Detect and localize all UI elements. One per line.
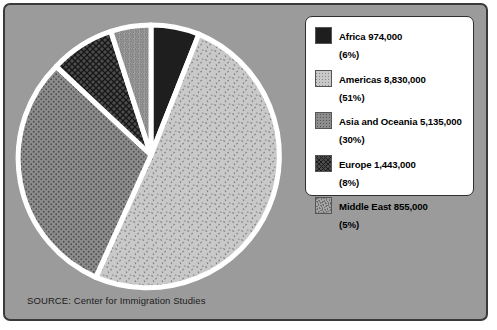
legend-swatch-americas: [315, 70, 332, 87]
legend-label-middle-east: Middle East 855,000: [339, 201, 428, 212]
pie-chart-svg: [15, 13, 287, 291]
legend-percent-europe: (8%): [339, 177, 359, 188]
legend-swatch-asia: [315, 112, 332, 129]
legend-percent-americas: (51%): [339, 92, 365, 103]
legend-item-americas[interactable]: Americas 8,830,000 (51%): [315, 69, 465, 105]
legend-label-americas: Americas 8,830,000: [339, 74, 426, 85]
pie-slices: [18, 25, 279, 288]
legend-item-middle-east[interactable]: Middle East 855,000 (5%): [315, 196, 465, 232]
legend-swatch-middle-east: [315, 197, 332, 214]
legend-item-asia-oceania[interactable]: Asia and Oceania 5,135,000 (30%): [315, 111, 465, 147]
legend-swatch-africa: [315, 27, 332, 44]
legend-percent-africa: (6%): [339, 49, 359, 60]
legend-percent-middle-east: (5%): [339, 219, 359, 230]
legend-item-africa[interactable]: Africa 974,000 (6%): [315, 26, 465, 62]
legend-percent-asia-oceania: (30%): [339, 134, 365, 145]
legend-item-africa-text: Africa 974,000 (6%): [339, 26, 402, 62]
legend-item-middle-east-text: Middle East 855,000 (5%): [339, 196, 428, 232]
legend-item-europe[interactable]: Europe 1,443,000 (8%): [315, 154, 465, 190]
legend-swatch-europe: [315, 155, 332, 172]
pie-chart: [15, 13, 287, 291]
legend-label-africa: Africa 974,000: [339, 31, 402, 42]
legend-item-europe-text: Europe 1,443,000 (8%): [339, 154, 416, 190]
chart-frame: SOURCE: Center for Immigration Studies A…: [3, 3, 488, 321]
legend-label-asia-oceania: Asia and Oceania 5,135,000: [339, 116, 462, 127]
legend-item-asia-oceania-text: Asia and Oceania 5,135,000 (30%): [339, 111, 462, 147]
legend-item-americas-text: Americas 8,830,000 (51%): [339, 69, 426, 105]
legend-label-europe: Europe 1,443,000: [339, 159, 416, 170]
source-note: SOURCE: Center for Immigration Studies: [27, 295, 206, 306]
chart-legend: Africa 974,000 (6%) Americas 8,830,000 (…: [305, 16, 474, 196]
